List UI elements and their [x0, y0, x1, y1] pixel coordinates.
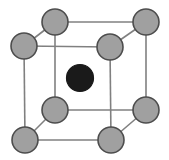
crystal-structure-figure — [0, 0, 169, 160]
corner-atom-front-bottom-left — [12, 127, 38, 153]
corner-atom-back-top-right — [133, 9, 159, 35]
corner-atom-front-bottom-right — [98, 127, 124, 153]
cube-edge-front-left — [24, 46, 25, 140]
corner-atom-front-top-right — [97, 34, 123, 60]
center-atom-group — [67, 65, 94, 92]
center-atom-body-center — [67, 65, 94, 92]
corner-atom-back-top-left — [42, 9, 68, 35]
corner-atom-back-bottom-left — [42, 97, 68, 123]
corner-atom-front-top-left — [11, 33, 37, 59]
corner-atom-back-bottom-right — [133, 97, 159, 123]
cube-edge-front-right — [110, 47, 111, 140]
bcc-unit-cell-diagram — [0, 0, 169, 160]
